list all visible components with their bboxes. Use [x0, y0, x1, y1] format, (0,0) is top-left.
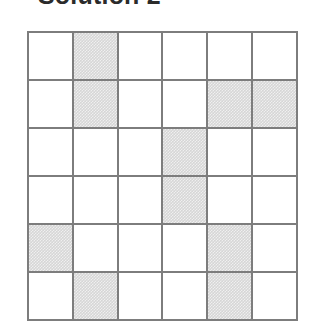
grid-cell: [74, 33, 119, 81]
grid-cell: [253, 273, 298, 321]
grid-cell: [74, 129, 119, 177]
grid-cell: [253, 129, 298, 177]
grid-cell: [163, 177, 208, 225]
grid-cell: [253, 81, 298, 129]
page-title: Solution 2: [38, 0, 161, 10]
grid-cell: [29, 225, 74, 273]
grid-cell: [119, 33, 164, 81]
grid-cell: [29, 177, 74, 225]
grid-cell: [119, 225, 164, 273]
grid-cell: [74, 177, 119, 225]
grid-cell: [29, 81, 74, 129]
title-container: Solution 2: [0, 0, 323, 26]
grid-cell: [163, 81, 208, 129]
grid-cell: [253, 225, 298, 273]
grid-cell: [253, 177, 298, 225]
grid-cell: [29, 129, 74, 177]
grid-cell: [119, 273, 164, 321]
grid-cell: [208, 273, 253, 321]
solution-grid: [27, 31, 298, 321]
grid-cell: [74, 273, 119, 321]
grid-cell: [29, 33, 74, 81]
grid-cell: [208, 225, 253, 273]
grid-cell: [74, 225, 119, 273]
grid-cell: [253, 33, 298, 81]
grid-cell: [163, 225, 208, 273]
grid-cell: [74, 81, 119, 129]
grid-cell: [29, 273, 74, 321]
grid-cell: [119, 177, 164, 225]
grid-cell: [163, 129, 208, 177]
grid-cell: [163, 273, 208, 321]
grid-cell: [163, 33, 208, 81]
grid-cell: [208, 81, 253, 129]
grid-cell: [208, 33, 253, 81]
grid-cell: [119, 81, 164, 129]
grid-cell: [208, 177, 253, 225]
grid-cell: [208, 129, 253, 177]
grid-cell: [119, 129, 164, 177]
